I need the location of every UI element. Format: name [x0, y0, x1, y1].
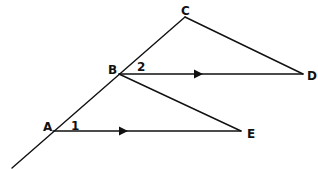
point-label-a: A [43, 120, 53, 134]
point-label-c: C [181, 4, 190, 18]
segment-be [119, 74, 241, 131]
point-label-d: D [307, 69, 317, 83]
parallel-arrow-icon [194, 70, 203, 79]
segment-cd [185, 17, 303, 74]
point-label-e: E [247, 127, 255, 141]
point-label-b: B [108, 63, 117, 77]
geometry-diagram: C B D A E 2 1 [0, 0, 318, 169]
parallel-arrow-icon [119, 127, 128, 136]
angle-label-1: 1 [71, 119, 79, 133]
angle-label-2: 2 [137, 60, 145, 74]
